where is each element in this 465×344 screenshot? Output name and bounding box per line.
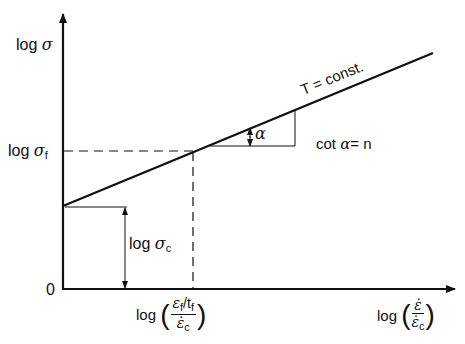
x-axis-label: log (ε̇ε̇c) xyxy=(377,298,435,332)
angle-label: α xyxy=(255,126,266,142)
y-axis-label: log σ xyxy=(16,37,53,53)
sigma-f-label: log σf xyxy=(8,143,48,161)
diagram-graphics xyxy=(0,0,465,344)
t-const-line xyxy=(63,53,433,206)
sigma-c-label: log σc xyxy=(129,236,171,254)
slope-label: cot α= n xyxy=(316,136,372,152)
x-mark-label: log (εf/tfε̇c) xyxy=(136,296,206,333)
origin-label: 0 xyxy=(46,282,55,298)
diagram-canvas: log σ log σf log σc 0 T = const. α cot α… xyxy=(0,0,465,344)
